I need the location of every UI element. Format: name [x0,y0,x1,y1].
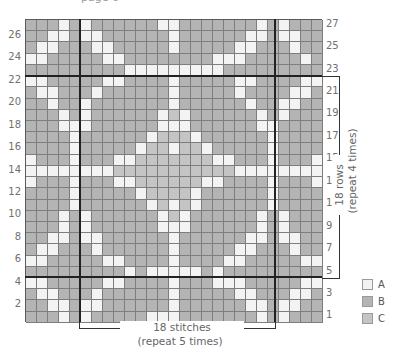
chart-cell [147,188,158,199]
chart-cell [224,300,235,311]
chart-cell [246,188,257,199]
chart-cell [48,110,59,121]
chart-cell [114,211,125,222]
chart-cell [279,177,290,188]
chart-cell [147,121,158,132]
chart-cell [147,211,158,222]
chart-cell [92,200,103,211]
chart-cell [290,256,301,267]
chart-cell [279,256,290,267]
chart-cell [114,42,125,53]
chart-cell [103,211,114,222]
chart-cell [235,188,246,199]
repeat-line-bottom [25,276,322,278]
chart-cell [26,110,37,121]
chart-cell [147,233,158,244]
chart-cell [26,278,37,289]
chart-cell [279,166,290,177]
chart-cell [180,222,191,233]
chart-cell [81,110,92,121]
row-number-label: 14 [3,164,21,175]
chart-cell [235,121,246,132]
chart-cell [37,132,48,143]
chart-cell [158,200,169,211]
chart-cell [202,42,213,53]
chart-cell [81,54,92,65]
chart-cell [92,155,103,166]
chart-cell [125,188,136,199]
chart-cell [92,42,103,53]
chart-cell [136,110,147,121]
chart-cell [147,166,158,177]
chart-cell [235,166,246,177]
chart-cell [48,177,59,188]
chart-cell [81,121,92,132]
chart-cell [158,244,169,255]
chart-cell [103,155,114,166]
chart-cell [235,54,246,65]
chart-cell [279,312,290,323]
chart-cell [257,143,268,154]
chart-cell [180,99,191,110]
chart-cell [246,233,257,244]
chart-cell [202,188,213,199]
legend-item-a: A [362,278,385,290]
chart-cell [290,244,301,255]
chart-cell [213,132,224,143]
chart-cell [26,54,37,65]
row-number-label: 8 [3,231,21,242]
chart-cell [224,110,235,121]
chart-cell [81,188,92,199]
chart-cell [202,31,213,42]
chart-cell [81,42,92,53]
chart-cell [147,99,158,110]
chart-cell [59,188,70,199]
chart-cell [301,87,312,98]
chart-cell [213,42,224,53]
chart-cell [136,132,147,143]
chart-cell [37,244,48,255]
row-number-label: 24 [3,51,21,62]
chart-cell [257,132,268,143]
chart-cell [246,42,257,53]
chart-cell [169,244,180,255]
chart-cell [257,200,268,211]
chart-cell [147,31,158,42]
chart-cell [48,300,59,311]
chart-cell [136,233,147,244]
chart-cell [158,42,169,53]
chart-cell [37,20,48,31]
chart-cell [81,200,92,211]
chart-cell [235,87,246,98]
chart-cell [92,222,103,233]
legend-item-b: B [362,295,385,307]
chart-cell [290,99,301,110]
chart-cell [246,76,257,87]
chart-cell [92,54,103,65]
chart-cell [246,289,257,300]
chart-cell [312,300,323,311]
chart-cell [103,99,114,110]
chart-cell [301,289,312,300]
chart-cell [26,222,37,233]
chart-cell [301,177,312,188]
chart-cell [213,121,224,132]
chart-cell [213,20,224,31]
chart-cell [37,200,48,211]
chart-cell [147,110,158,121]
chart-cell [37,233,48,244]
chart-cell [158,300,169,311]
row-number-label: 26 [3,29,21,40]
chart-cell [26,42,37,53]
chart-cell [246,222,257,233]
legend-label-b: B [378,296,385,307]
chart-cell [92,87,103,98]
chart-cell [103,87,114,98]
chart-cell [169,143,180,154]
chart-cell [202,155,213,166]
chart-cell [246,166,257,177]
chart-cell [301,121,312,132]
chart-cell [191,177,202,188]
chart-cell [213,87,224,98]
chart-cell [158,278,169,289]
